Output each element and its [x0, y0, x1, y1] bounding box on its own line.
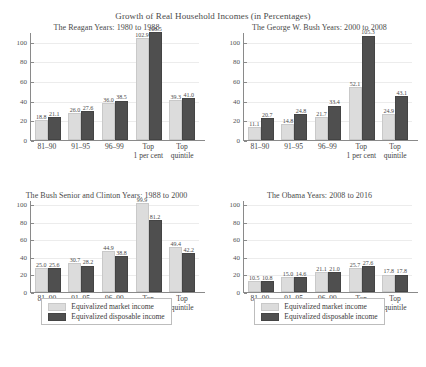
- bar-group: 25.727.6: [349, 201, 375, 292]
- legend-label-disposable: Equivalized disposable income: [284, 312, 377, 321]
- bar-disposable-income: 21.1: [48, 117, 61, 140]
- legend-left: Equivalized market income Equivalized di…: [0, 298, 213, 325]
- bar-value-label: 105.3: [361, 29, 375, 36]
- bar-value-label: 21.1: [49, 111, 60, 118]
- bar-group: 15.014.6: [281, 201, 307, 292]
- bar-value-label: 10.5: [249, 275, 260, 282]
- panel-reagan: The Reagan Years: 1980 to 1988 020406080…: [0, 21, 213, 189]
- plot-area: 02040608010010.510.815.014.621.121.025.7…: [217, 201, 418, 312]
- bar-disposable-income: 25.6: [48, 268, 61, 292]
- bar-value-label: 26.0: [70, 107, 81, 114]
- bar-disposable-income: 38.5: [115, 101, 128, 140]
- bar-group: 10.510.8: [248, 201, 274, 292]
- bar-disposable-income: 43.1: [395, 96, 408, 140]
- bar-disposable-income: 33.4: [328, 106, 341, 140]
- plot-area: 02040608010011.120.714.824.821.733.452.1…: [217, 33, 418, 160]
- bar-groups: 25.025.630.728.244.938.899.981.249.442.2: [31, 201, 199, 292]
- x-axis-tick-label: 96–99: [311, 143, 345, 160]
- bar-group: 21.733.4: [315, 33, 341, 140]
- legend-right: Equivalized market income Equivalized di…: [213, 298, 426, 325]
- y-axis-tick: 20: [20, 271, 31, 279]
- bar-market-income: 25.0: [35, 268, 48, 292]
- x-axis-tick-label: 91–95: [64, 143, 98, 160]
- y-axis-tick: 20: [233, 117, 244, 125]
- bar-value-label: 102.9: [135, 32, 149, 39]
- bar-value-label: 25.0: [36, 262, 47, 269]
- bar-value-label: 33.4: [329, 99, 340, 106]
- bar-value-label: 52.1: [350, 81, 361, 88]
- bar-disposable-income: 27.6: [81, 111, 94, 140]
- bar-value-label: 24.8: [296, 108, 307, 115]
- y-axis-tick: 80: [233, 58, 244, 66]
- bar-group: 14.824.8: [281, 33, 307, 140]
- y-axis-tick: 100: [17, 201, 32, 209]
- panel-grid: The Reagan Years: 1980 to 1988 020406080…: [0, 21, 426, 329]
- bar-group: 99.981.2: [136, 201, 162, 292]
- legend-swatch-disposable-icon: [48, 313, 66, 321]
- x-axis-labels: 81–9091–9596–99Top1 per centTopquintile: [30, 143, 199, 160]
- x-axis-tick-label: Top1 per cent: [344, 143, 378, 160]
- bar-value-label: 17.8: [383, 268, 394, 275]
- bar-value-label: 25.6: [49, 262, 60, 269]
- bar-disposable-income: 27.6: [362, 266, 375, 292]
- bar-group: 21.121.0: [315, 201, 341, 292]
- figure-container: Growth of Real Household Incomes (in Per…: [0, 0, 426, 367]
- bar-group: 25.025.6: [35, 201, 61, 292]
- bar-disposable-income: 24.8: [294, 114, 307, 140]
- y-axis-tick: 60: [233, 78, 244, 86]
- x-axis-line: [244, 140, 418, 141]
- bar-groups: 18.821.126.027.636.038.5102.9108.539.341…: [31, 33, 199, 140]
- bar-disposable-income: 41.0: [182, 98, 195, 140]
- bar-value-label: 43.1: [396, 90, 407, 97]
- y-axis-tick: 60: [233, 236, 244, 244]
- x-axis-labels: 81–9091–9596–99Top1 per centTopquintile: [243, 143, 412, 160]
- y-axis-tick: 40: [233, 98, 244, 106]
- bar-value-label: 25.7: [350, 262, 361, 269]
- bar-group: 11.120.7: [248, 33, 274, 140]
- x-axis-tick-label: Topquintile: [378, 143, 412, 160]
- bar-market-income: 99.9: [136, 203, 149, 292]
- bar-value-label: 39.3: [170, 94, 181, 101]
- bar-value-label: 18.8: [36, 114, 47, 121]
- y-axis-tick: 40: [20, 254, 31, 262]
- legend-item-disposable: Equivalized disposable income: [48, 312, 164, 321]
- y-axis-tick: 100: [230, 39, 245, 47]
- y-axis-tick: 80: [20, 58, 31, 66]
- bar-market-income: 21.1: [315, 272, 328, 292]
- bar-market-income: 15.0: [281, 277, 294, 292]
- panel-obama: The Obama Years: 2008 to 2016 0204060801…: [213, 189, 426, 329]
- legend-item-disposable: Equivalized disposable income: [261, 312, 377, 321]
- legend-box: Equivalized market income Equivalized di…: [41, 298, 171, 325]
- bar-group: 24.943.1: [382, 33, 408, 140]
- bar-value-label: 81.2: [150, 214, 161, 221]
- bar-value-label: 36.0: [103, 97, 114, 104]
- bar-disposable-income: 10.8: [261, 281, 274, 292]
- bar-group: 30.728.2: [68, 201, 94, 292]
- bar-market-income: 14.8: [281, 124, 294, 140]
- x-axis-tick-label: 96–99: [98, 143, 132, 160]
- legend-swatch-market-icon: [48, 303, 66, 311]
- bar-market-income: 49.4: [169, 247, 182, 292]
- bar-value-label: 14.6: [296, 271, 307, 278]
- y-axis-tick: 20: [233, 271, 244, 279]
- x-axis-tick-label: 91–95: [277, 143, 311, 160]
- bar-group: 44.938.8: [102, 201, 128, 292]
- bar-value-label: 41.0: [183, 92, 194, 99]
- panel-title: The George W. Bush Years: 2000 to 2008: [213, 23, 426, 32]
- legend-swatch-disposable-icon: [261, 313, 279, 321]
- bar-groups: 10.510.815.014.621.121.025.727.617.817.8: [244, 201, 412, 292]
- bar-group: 49.442.2: [169, 201, 195, 292]
- bar-disposable-income: 20.7: [261, 118, 274, 140]
- bar-value-label: 44.9: [103, 245, 114, 252]
- bar-value-label: 21.7: [316, 111, 327, 118]
- x-axis-tick-label: 81–90: [30, 143, 64, 160]
- bar-group: 52.1105.3: [349, 33, 375, 140]
- legend-item-market: Equivalized market income: [261, 302, 377, 311]
- panel-title: The Reagan Years: 1980 to 1988: [0, 23, 213, 32]
- x-axis-line: [244, 292, 418, 293]
- bar-value-label: 99.9: [137, 197, 148, 204]
- bar-group: 26.027.6: [68, 33, 94, 140]
- bar-market-income: 44.9: [102, 251, 115, 292]
- bar-market-income: 10.5: [248, 281, 261, 292]
- bar-market-income: 11.1: [248, 127, 261, 140]
